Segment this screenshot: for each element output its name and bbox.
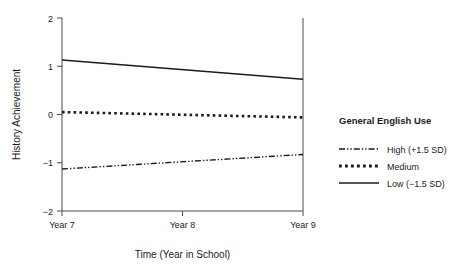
legend-label-high: High (+1.5 SD)	[387, 145, 447, 155]
legend: General English Use High (+1.5 SD) Mediu…	[339, 115, 447, 189]
x-tick-labels: Year 7 Year 8 Year 9	[49, 220, 316, 230]
x-axis-title: Time (Year in School)	[135, 249, 230, 260]
x-tick-marks	[62, 211, 303, 216]
line-chart: 2 1 0 −1 −2 Year 7 Year 8 Year 9 Time (Y…	[0, 0, 469, 274]
y-tick-label-1: 1	[48, 62, 53, 72]
x-tick-label-year9: Year 9	[290, 220, 316, 230]
series-line-high	[62, 155, 303, 170]
legend-item-low[interactable]: Low (−1.5 SD)	[339, 179, 445, 189]
y-tick-labels: 2 1 0 −1 −2	[43, 14, 53, 217]
legend-title: General English Use	[339, 115, 431, 126]
y-axis-title: History Achievement	[11, 69, 22, 160]
series-line-low	[62, 60, 303, 79]
legend-label-medium: Medium	[387, 162, 419, 172]
chart-figure: 2 1 0 −1 −2 Year 7 Year 8 Year 9 Time (Y…	[0, 0, 469, 274]
y-tick-marks	[57, 18, 62, 211]
plot-axes	[62, 18, 303, 211]
x-tick-label-year8: Year 8	[170, 220, 196, 230]
y-tick-label-2: 2	[48, 14, 53, 24]
legend-item-high[interactable]: High (+1.5 SD)	[339, 145, 447, 155]
legend-item-medium[interactable]: Medium	[339, 162, 419, 172]
legend-label-low: Low (−1.5 SD)	[387, 179, 445, 189]
x-tick-label-year7: Year 7	[49, 220, 75, 230]
y-tick-label-neg2: −2	[43, 207, 53, 217]
y-tick-label-0: 0	[48, 110, 53, 120]
series-line-medium	[62, 112, 303, 117]
y-tick-label-neg1: −1	[43, 158, 53, 168]
axis-frame	[62, 18, 303, 211]
